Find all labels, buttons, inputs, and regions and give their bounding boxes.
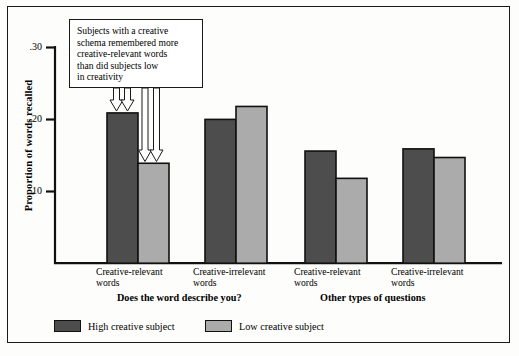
- group-label-left: Does the word describe you?: [117, 292, 242, 303]
- legend-item-low-creative: Low creative subject: [205, 320, 324, 332]
- legend-item-high-creative: High creative subject: [54, 320, 175, 332]
- category-label-4-line2: words: [391, 278, 473, 289]
- y-tick-label-010: .10: [12, 185, 42, 196]
- callout-line-1: Subjects with a creative: [77, 25, 196, 37]
- callout-line-5: in creativity: [77, 71, 196, 83]
- legend-label-low-creative: Low creative subject: [239, 321, 324, 332]
- annotation-callout-box: Subjects with a creative schema remember…: [69, 19, 203, 88]
- bar-g2-low-creative: [236, 106, 267, 263]
- bar-g1-high-creative: [107, 113, 138, 263]
- y-axis-title: Proportion of words recalled: [23, 46, 34, 246]
- category-label-2: Creative-irrelevant words: [193, 267, 275, 289]
- annotation-arrow-to-low-bar: [139, 88, 152, 162]
- category-label-1-line2: words: [96, 278, 178, 289]
- callout-line-2: schema remembered more: [77, 37, 196, 49]
- annotation-arrow-to-high-bar-2: [121, 88, 134, 111]
- bar-g3-low-creative: [336, 178, 367, 263]
- category-label-3: Creative-relevant words: [294, 267, 376, 289]
- category-label-4: Creative-irrelevant words: [391, 267, 473, 289]
- legend-label-high-creative: High creative subject: [88, 321, 175, 332]
- bar-g3-high-creative: [305, 151, 336, 263]
- figure-container: Proportion of words recalled .30 .20 .10…: [0, 0, 519, 356]
- y-tick-label-030: .30: [12, 41, 42, 52]
- y-tick-label-020: .20: [12, 113, 42, 124]
- category-label-1: Creative-relevant words: [96, 267, 178, 289]
- legend-swatch-low-creative: [205, 320, 232, 332]
- annotation-arrow-to-low-bar-2: [150, 88, 163, 162]
- callout-line-4: than did subjects low: [77, 60, 196, 72]
- legend-swatch-high-creative: [54, 320, 81, 332]
- bar-g1-low-creative: [138, 163, 169, 263]
- bar-g4-low-creative: [434, 158, 465, 264]
- bar-g2-high-creative: [205, 119, 236, 263]
- group-label-right: Other types of questions: [320, 292, 425, 303]
- callout-line-3: creative-relevant words: [77, 48, 196, 60]
- category-label-2-line2: words: [193, 278, 275, 289]
- bar-g4-high-creative: [403, 149, 434, 263]
- category-label-3-line2: words: [294, 278, 376, 289]
